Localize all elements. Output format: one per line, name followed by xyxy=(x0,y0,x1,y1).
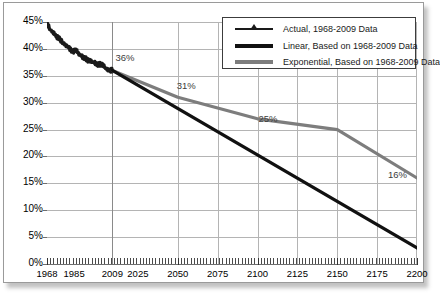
y-axis-tick-label: 10% xyxy=(7,204,43,214)
y-axis-tick-label: 35% xyxy=(7,70,43,80)
x-axis-tick-label: 2200 xyxy=(406,269,427,279)
y-axis-tick-label: 0% xyxy=(7,258,43,268)
x-axis-minor-tick xyxy=(417,258,418,265)
legend-label-actual: Actual, 1968-2009 Data xyxy=(283,24,378,35)
legend-item-actual: Actual, 1968-2009 Data xyxy=(223,21,415,38)
x-axis-tick-label: 2150 xyxy=(327,269,348,279)
legend-swatch-linear-icon xyxy=(235,44,273,48)
legend-swatch-exponential-icon xyxy=(235,60,273,64)
legend-label-linear: Linear, Based on 1968-2009 Data xyxy=(283,41,418,52)
series-actual xyxy=(47,22,112,72)
y-axis-tick-label: 5% xyxy=(7,231,43,241)
legend-label-exponential: Exponential, Based on 1968-2009 Data xyxy=(283,57,440,68)
y-axis-tick-label: 30% xyxy=(7,97,43,107)
x-axis-tick-label: 2100 xyxy=(247,269,268,279)
x-axis-tick-label: 2075 xyxy=(207,269,228,279)
annotation-25: 25% xyxy=(259,114,278,124)
chart-legend: Actual, 1968-2009 Data Linear, Based on … xyxy=(222,17,416,69)
y-axis-tick-label: 20% xyxy=(7,150,43,160)
legend-triangle-marker-icon xyxy=(250,24,258,30)
annotation-36: 36% xyxy=(115,53,134,63)
y-axis-tick-label: 45% xyxy=(7,16,43,26)
x-axis-tick-label: 2009 xyxy=(102,269,123,279)
x-axis-tick-label: 1968 xyxy=(36,269,57,279)
x-axis-tick-label: 2050 xyxy=(167,269,188,279)
x-axis-tick-label: 2125 xyxy=(287,269,308,279)
x-axis-tick-label: 2025 xyxy=(127,269,148,279)
y-axis-labels: 0%5%10%15%20%25%30%35%40%45% xyxy=(4,3,43,294)
legend-item-linear: Linear, Based on 1968-2009 Data xyxy=(223,38,415,55)
y-axis-tick-label: 25% xyxy=(7,124,43,134)
x-axis-tick-label: 1985 xyxy=(64,269,85,279)
annotation-31: 31% xyxy=(177,81,196,91)
y-axis-tick-label: 15% xyxy=(7,177,43,187)
legend-item-exponential: Exponential, Based on 1968-2009 Data xyxy=(223,54,415,71)
y-axis-tick-label: 40% xyxy=(7,43,43,53)
x-axis-labels: 1968198520092025205020752100212521502175… xyxy=(4,269,437,285)
chart-frame: 0%5%10%15%20%25%30%35%40%45% 19681985200… xyxy=(3,2,424,283)
series-linear xyxy=(112,70,417,248)
x-axis-tick-label: 2175 xyxy=(367,269,388,279)
annotation-16: 16% xyxy=(388,170,407,180)
series-exponential xyxy=(112,70,417,178)
